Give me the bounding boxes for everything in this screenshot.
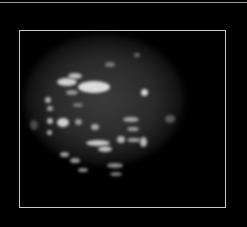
bright-speckle (123, 117, 139, 122)
bright-speckle (68, 73, 82, 79)
bright-speckle (78, 168, 88, 172)
bright-speckle (78, 81, 110, 93)
bright-speckle (45, 97, 51, 103)
bright-speckle (165, 115, 175, 123)
bright-speckle (91, 124, 99, 130)
image-canvas (0, 0, 247, 227)
top-border-line (0, 2, 247, 3)
bright-speckle (110, 172, 122, 176)
bright-speckle (47, 130, 52, 135)
bright-speckle (127, 138, 141, 142)
bright-speckle (105, 62, 115, 67)
bright-speckle (30, 120, 38, 130)
bright-speckle (47, 106, 53, 111)
bright-speckle (141, 89, 148, 96)
bright-speckle (57, 78, 77, 86)
bright-speckle (70, 158, 80, 163)
bright-speckle (117, 136, 125, 143)
bright-speckle (98, 146, 112, 152)
bright-speckle (140, 137, 147, 147)
bright-speckle (107, 163, 123, 168)
bright-speckle (60, 152, 69, 157)
bright-speckle (134, 53, 140, 57)
bright-speckle (66, 90, 78, 95)
bright-speckle (73, 103, 83, 107)
bright-speckle (57, 118, 69, 127)
bright-speckle (127, 127, 139, 131)
bright-speckle (75, 119, 82, 125)
bright-speckle (47, 118, 53, 124)
